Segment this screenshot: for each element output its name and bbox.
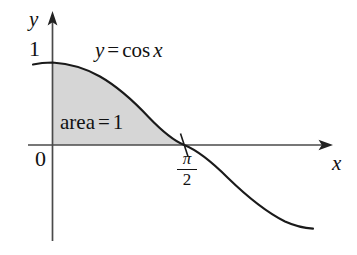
cosine-area-figure: y 1 0 x y=cosx area=1 π 2 [0,0,357,255]
fraction-numerator-pi: π [175,150,199,168]
x-axis-label: x [332,153,341,174]
equation-equals-sign: = [104,38,122,62]
fraction-denominator-two: 2 [175,171,199,189]
equation-argument: x [150,38,162,62]
area-equals-sign: = [95,110,113,134]
y-axis-label: y [29,9,38,30]
equation-annotation: y=cosx [95,40,163,61]
area-annotation: area=1 [60,112,123,133]
x-tick-label-pi-over-two: π 2 [175,150,199,189]
y-tick-label-one: 1 [29,38,40,60]
area-value: 1 [113,110,124,134]
figure-canvas [0,0,357,255]
equation-function-name: cos [122,38,150,62]
equation-lhs: y [95,38,104,62]
area-word: area [60,110,95,134]
origin-label-zero: 0 [35,148,46,170]
